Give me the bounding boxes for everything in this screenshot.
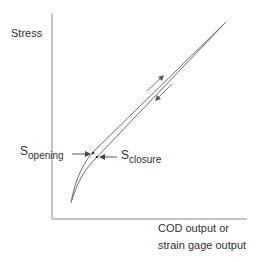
s-opening-subscript: opening bbox=[28, 150, 64, 161]
loading-curve bbox=[71, 22, 226, 203]
opening-arrow-icon bbox=[72, 151, 91, 157]
unloading-curve bbox=[72, 22, 226, 200]
s-closure-subscript: closure bbox=[129, 154, 161, 165]
opening-point bbox=[92, 152, 95, 155]
x-axis-label-line1: COD output or bbox=[158, 222, 229, 234]
stress-cod-diagram: Stress Sopening Sclosure COD output or s… bbox=[0, 0, 263, 262]
s-opening-symbol: S bbox=[20, 144, 28, 158]
s-opening-label: Sopening bbox=[20, 145, 64, 158]
loading-direction-arrow-icon bbox=[147, 75, 164, 91]
s-closure-symbol: S bbox=[121, 148, 129, 162]
y-axis-label: Stress bbox=[11, 27, 42, 39]
x-axis-label-line2: strain gage output bbox=[158, 239, 246, 251]
closure-arrow-icon bbox=[99, 154, 117, 160]
unloading-direction-arrow-icon bbox=[155, 84, 172, 101]
s-closure-label: Sclosure bbox=[121, 149, 161, 162]
closure-point bbox=[96, 156, 99, 159]
